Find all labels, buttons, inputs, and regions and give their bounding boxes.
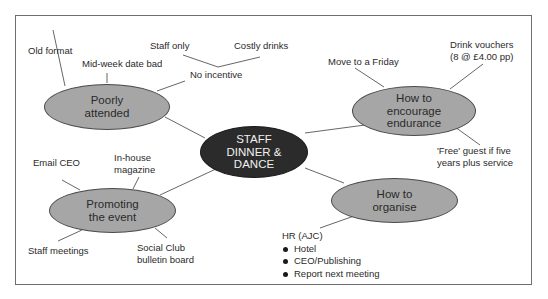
label-social-club: Social Club bulletin board [137, 242, 194, 265]
branch-label: How to organise [372, 188, 416, 213]
branch-label: Promoting the event [86, 198, 138, 223]
center-label: STAFF DINNER & DANCE [227, 133, 282, 171]
bullet-item: Report next meeting [282, 268, 380, 280]
branch-poorly-attended: Poorly attended [44, 84, 170, 130]
label-move-to-friday: Move to a Friday [328, 56, 399, 68]
branch-encourage-endurance: How to encourage endurance [352, 86, 476, 136]
center-node: STAFF DINNER & DANCE [200, 126, 308, 178]
label-costly-drinks: Costly drinks [234, 40, 288, 52]
label-free-guest: 'Free' guest if five years plus service [437, 145, 513, 168]
label-hr-ajc: HR (AJC) [282, 230, 323, 242]
label-old-format: Old format [28, 45, 72, 57]
label-staff-meetings: Staff meetings [28, 245, 89, 257]
branch-how-to-organise: How to organise [331, 178, 458, 223]
label-email-ceo: Email CEO [33, 157, 80, 169]
label-no-incentive: No incentive [190, 69, 242, 81]
bullet-item: CEO/Publishing [282, 255, 380, 267]
label-drink-vouchers: Drink vouchers (8 @ £4.00 pp) [450, 39, 514, 62]
branch-label: How to encourage endurance [387, 92, 441, 130]
branch-label: Poorly attended [85, 94, 130, 119]
bullet-item: Hotel [282, 243, 380, 255]
label-in-house-magazine: In-house magazine [114, 152, 155, 175]
organise-bullet-list: Hotel CEO/Publishing Report next meeting [282, 243, 380, 280]
label-mid-week-date-bad: Mid-week date bad [82, 58, 162, 70]
label-staff-only: Staff only [150, 40, 189, 52]
branch-promoting-event: Promoting the event [49, 188, 176, 233]
